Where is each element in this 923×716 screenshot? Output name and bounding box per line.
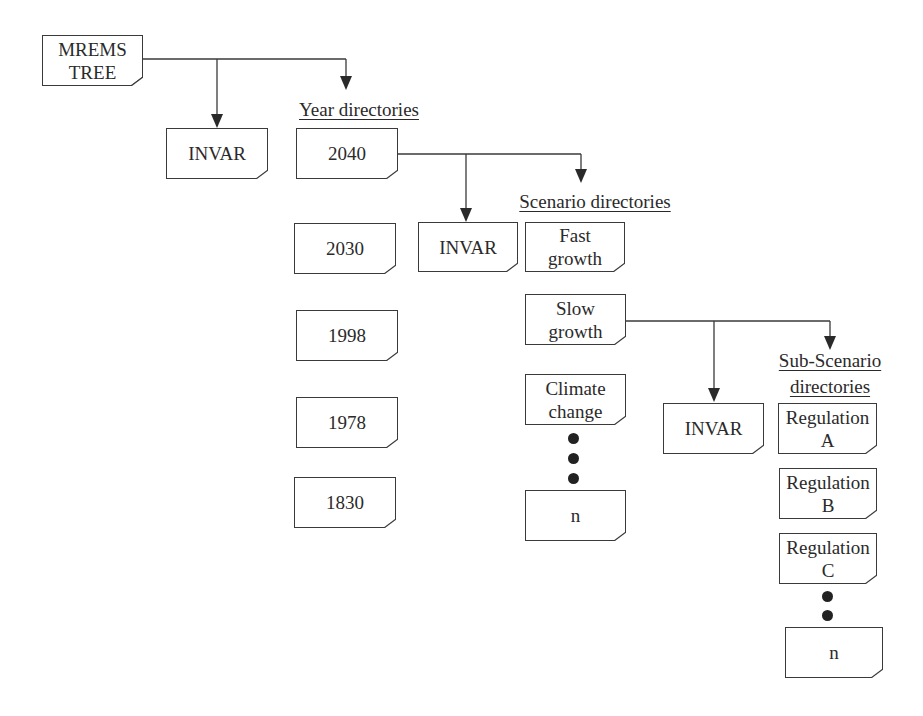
folded-corner-icon [614,336,626,345]
arrow-down-icon [575,169,587,183]
node-label: Regulation [786,536,869,559]
directory-tree-diagram: MREMS TREE INVAR Year directories 2040 2… [0,0,923,716]
node-label: TREE [69,61,117,84]
heading-subscenario-line2: directories [770,375,890,398]
folded-corner-icon [384,519,396,528]
node-invar-2040: INVAR [418,222,518,272]
node-label: 1830 [326,491,364,514]
folded-corner-icon [386,439,398,448]
ellipsis-dot-icon [568,433,579,444]
heading-subscenario-line1: Sub-Scenario [770,349,890,372]
folded-corner-icon [614,532,626,541]
folded-corner-icon [384,265,396,274]
arrow-down-icon [460,208,472,222]
node-label: growth [548,247,602,270]
node-subscenario-n: n [785,627,883,678]
node-year-2030: 2030 [294,223,396,274]
node-label: n [829,641,839,664]
node-label: INVAR [188,142,246,165]
folded-corner-icon [613,263,625,272]
node-year-1978: 1978 [296,397,398,448]
ellipsis-dot-icon [568,453,579,464]
node-label: Slow [556,297,595,320]
ellipsis-dot-icon [822,591,833,602]
folded-corner-icon [131,77,143,86]
node-label: 1978 [328,411,366,434]
node-label: 2040 [328,142,366,165]
node-subscenario-regulation-c: Regulation C [779,533,877,584]
folded-corner-icon [865,575,877,584]
node-label: 1998 [328,324,366,347]
node-scenario-slow-growth: Slow growth [525,294,626,345]
node-label: Fast [559,224,591,247]
node-label: A [821,429,835,452]
arrow-down-icon [340,76,352,90]
arrow-down-icon [211,114,223,128]
ellipsis-dot-icon [568,473,579,484]
node-label: C [822,559,835,582]
node-invar-slow-growth: INVAR [663,403,764,454]
heading-scenario-directories: Scenario directories [506,190,684,213]
node-year-2040: 2040 [296,128,398,179]
folded-corner-icon [386,352,398,361]
node-label: change [549,400,603,423]
node-invar-root: INVAR [166,128,268,179]
node-label: MREMS [58,38,127,61]
ellipsis-dot-icon [822,610,833,621]
heading-year-directories: Year directories [296,98,422,121]
node-label: Regulation [786,406,869,429]
node-subscenario-regulation-a: Regulation A [778,403,877,454]
node-label: Climate [545,377,605,400]
folded-corner-icon [256,170,268,179]
arrow-down-icon [824,336,836,350]
folded-corner-icon [865,510,877,519]
folded-corner-icon [386,170,398,179]
node-year-1830: 1830 [294,477,396,528]
node-label: growth [549,320,603,343]
node-subscenario-regulation-b: Regulation B [779,468,877,519]
node-scenario-fast-growth: Fast growth [525,222,625,272]
node-label: Regulation [786,471,869,494]
node-scenario-n: n [525,490,626,541]
node-scenario-climate-change: Climate change [525,374,626,425]
folded-corner-icon [752,445,764,454]
node-label: n [571,504,581,527]
node-year-1998: 1998 [296,310,398,361]
folded-corner-icon [865,445,877,454]
node-label: INVAR [685,417,743,440]
node-label: 2030 [326,237,364,260]
node-label: INVAR [439,236,497,259]
folded-corner-icon [506,263,518,272]
arrow-down-icon [708,388,720,402]
node-label: B [822,494,835,517]
folded-corner-icon [871,669,883,678]
folded-corner-icon [614,416,626,425]
node-mrems-tree: MREMS TREE [42,35,143,86]
